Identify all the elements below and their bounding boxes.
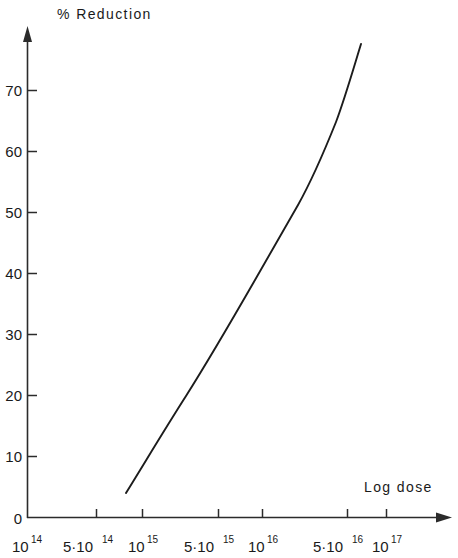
chart-canvas: 0 10 20 30 40 50 60 70 10 14 5·10 14 10 … <box>0 0 458 558</box>
svg-text:10: 10 <box>248 538 265 555</box>
svg-text:5·10: 5·10 <box>313 538 343 555</box>
svg-text:14: 14 <box>31 534 43 545</box>
y-tick-label-60: 60 <box>5 143 22 160</box>
svg-text:14: 14 <box>102 534 114 545</box>
svg-text:16: 16 <box>352 534 364 545</box>
dose-response-curve <box>126 44 361 493</box>
svg-text:15: 15 <box>223 534 235 545</box>
y-tick-label-10: 10 <box>5 448 22 465</box>
svg-text:16: 16 <box>267 534 279 545</box>
y-axis-arrow-icon <box>23 26 32 42</box>
x-tick-label-1e15: 10 15 <box>128 534 159 555</box>
x-tick-label-5e16: 5·10 16 <box>313 534 364 555</box>
svg-text:10: 10 <box>128 538 145 555</box>
y-axis-title: % Reduction <box>57 6 152 22</box>
svg-text:5·10: 5·10 <box>184 538 214 555</box>
x-tick-labels: 10 14 5·10 14 10 15 5·10 15 10 16 5·10 <box>12 534 403 555</box>
x-axis <box>27 513 452 523</box>
x-tick-marks <box>97 509 387 518</box>
x-tick-label-5e14: 5·10 14 <box>63 534 114 555</box>
y-tick-marks <box>28 91 37 457</box>
y-tick-label-70: 70 <box>5 82 22 99</box>
x-axis-title: Log dose <box>364 479 433 495</box>
svg-text:15: 15 <box>147 534 159 545</box>
svg-text:10: 10 <box>12 538 29 555</box>
x-tick-label-5e15: 5·10 15 <box>184 534 235 555</box>
y-tick-label-30: 30 <box>5 326 22 343</box>
y-tick-label-40: 40 <box>5 265 22 282</box>
dose-response-chart: 0 10 20 30 40 50 60 70 10 14 5·10 14 10 … <box>0 0 458 558</box>
y-axis <box>23 26 32 518</box>
x-tick-label-1e14: 10 14 <box>12 534 43 555</box>
svg-text:17: 17 <box>391 534 403 545</box>
y-tick-label-20: 20 <box>5 387 22 404</box>
svg-text:5·10: 5·10 <box>63 538 93 555</box>
y-tick-labels: 0 10 20 30 40 50 60 70 <box>5 82 22 527</box>
svg-text:10: 10 <box>372 538 389 555</box>
y-tick-label-50: 50 <box>5 204 22 221</box>
y-tick-label-0: 0 <box>14 510 22 527</box>
x-tick-label-1e17: 10 17 <box>372 534 403 555</box>
x-axis-arrow-icon <box>436 513 452 523</box>
x-tick-label-1e16: 10 16 <box>248 534 279 555</box>
